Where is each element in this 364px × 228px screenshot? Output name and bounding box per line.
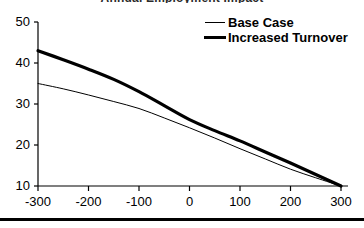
x-axis-tick-label: -100	[117, 194, 161, 209]
series-line-base-case	[38, 84, 341, 187]
bottom-divider	[0, 218, 364, 221]
x-axis-tick-label: 0	[168, 194, 212, 209]
legend-item-increased-turnover: Increased Turnover	[204, 30, 362, 44]
x-axis-tick-label: -200	[67, 194, 111, 209]
x-axis-tick-label: 300	[319, 194, 363, 209]
y-axis-tick-label: 20	[2, 137, 30, 152]
legend-item-base-case: Base Case	[204, 15, 362, 29]
y-axis-tick-label: 10	[2, 178, 30, 193]
x-axis-tick-label: 200	[269, 194, 313, 209]
x-axis-tick-label: 100	[218, 194, 262, 209]
legend-label-base-case: Base Case	[226, 15, 294, 30]
y-axis-tick-label: 50	[2, 14, 30, 29]
chart-figure: Annual Employment Impact 5040302010 -300…	[0, 0, 364, 228]
x-axis-tick-label: -300	[16, 194, 60, 209]
chart-legend: Base Case Increased Turnover	[204, 15, 362, 45]
y-axis-tick-label: 40	[2, 55, 30, 70]
legend-line-icon-increased-turnover	[204, 32, 226, 42]
legend-line-icon-base-case	[204, 17, 226, 27]
legend-label-increased-turnover: Increased Turnover	[226, 30, 348, 45]
x-axis-ticks	[38, 186, 341, 191]
series-line-increased-turnover	[38, 51, 341, 186]
y-axis-tick-label: 30	[2, 96, 30, 111]
